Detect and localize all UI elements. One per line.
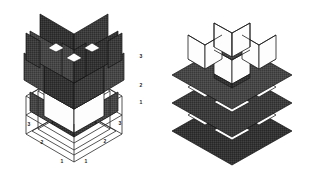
level-label: 3 xyxy=(140,53,143,59)
level-label: 3 xyxy=(28,121,31,127)
level-label: 2 xyxy=(140,82,143,88)
figure-root: 3 2 1 3 3 2 2 1 1 xyxy=(0,0,311,185)
level-label: 1 xyxy=(85,158,88,164)
level-label: 3 xyxy=(119,120,122,126)
level-label: 1 xyxy=(140,99,143,105)
figure-canvas: 3 2 1 3 3 2 2 1 1 xyxy=(0,0,311,185)
level-label: 1 xyxy=(61,158,64,164)
level-label: 2 xyxy=(41,139,44,145)
level-label: 2 xyxy=(104,138,107,144)
